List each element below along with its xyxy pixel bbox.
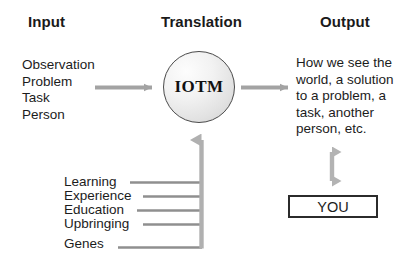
list-item: Experience [64, 189, 132, 203]
translation-node-label: IOTM [175, 77, 224, 97]
list-item: Genes [64, 237, 132, 251]
list-item: Education [64, 203, 132, 217]
diagram-canvas: Input Translation Output Observation Pro… [0, 0, 412, 273]
factor-label: Education [64, 202, 124, 217]
translation-node-circle: IOTM [163, 51, 235, 123]
output-description-text: How we see the world, a solution to a pr… [296, 55, 408, 138]
factor-label: Learning [64, 174, 117, 189]
list-item: Learning [64, 175, 132, 189]
input-items-list: Observation Problem Task Person [22, 57, 95, 123]
list-item: Upbringing [64, 217, 132, 231]
observer-box-label: YOU [317, 199, 348, 215]
column-header-input: Input [28, 13, 65, 30]
column-header-output: Output [320, 13, 370, 30]
column-header-translation: Translation [161, 13, 242, 30]
factor-label: Experience [64, 188, 132, 203]
factor-label: Genes [64, 236, 104, 251]
factor-label: Upbringing [64, 216, 129, 231]
influence-factors-list: Learning Experience Education Upbringing… [64, 175, 132, 251]
observer-box: YOU [288, 195, 378, 218]
